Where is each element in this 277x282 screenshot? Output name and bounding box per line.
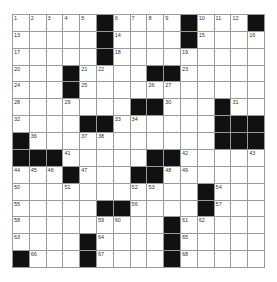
- grid-cell[interactable]: [97, 184, 114, 201]
- grid-cell[interactable]: 31: [231, 99, 248, 116]
- grid-cell[interactable]: [114, 82, 131, 99]
- grid-cell[interactable]: [198, 251, 215, 268]
- grid-cell[interactable]: 13: [13, 32, 30, 49]
- grid-cell[interactable]: [30, 32, 47, 49]
- grid-cell[interactable]: 33: [114, 116, 131, 133]
- grid-cell[interactable]: 44: [13, 167, 30, 184]
- grid-cell[interactable]: 58: [13, 217, 30, 234]
- grid-cell[interactable]: [97, 167, 114, 184]
- grid-cell[interactable]: 8: [147, 15, 164, 32]
- grid-cell[interactable]: [47, 184, 64, 201]
- grid-cell[interactable]: [198, 150, 215, 167]
- grid-cell[interactable]: 50: [13, 184, 30, 201]
- grid-cell[interactable]: 51: [63, 184, 80, 201]
- grid-cell[interactable]: [215, 66, 232, 83]
- grid-cell[interactable]: [215, 150, 232, 167]
- grid-cell[interactable]: 54: [215, 184, 232, 201]
- grid-cell[interactable]: 53: [147, 184, 164, 201]
- grid-cell[interactable]: 34: [131, 116, 148, 133]
- grid-cell[interactable]: [231, 167, 248, 184]
- grid-cell[interactable]: 17: [13, 49, 30, 66]
- grid-cell[interactable]: [198, 66, 215, 83]
- grid-cell[interactable]: 22: [97, 66, 114, 83]
- grid-cell[interactable]: 24: [13, 82, 30, 99]
- grid-cell[interactable]: [80, 49, 97, 66]
- grid-cell[interactable]: [147, 217, 164, 234]
- grid-cell[interactable]: 56: [131, 201, 148, 218]
- grid-cell[interactable]: 36: [30, 133, 47, 150]
- grid-cell[interactable]: [131, 66, 148, 83]
- grid-cell[interactable]: [30, 66, 47, 83]
- grid-cell[interactable]: 23: [181, 66, 198, 83]
- grid-cell[interactable]: 59: [97, 217, 114, 234]
- grid-cell[interactable]: 41: [63, 150, 80, 167]
- grid-cell[interactable]: [231, 66, 248, 83]
- grid-cell[interactable]: 19: [181, 49, 198, 66]
- grid-cell[interactable]: [47, 133, 64, 150]
- grid-cell[interactable]: [248, 234, 265, 251]
- grid-cell[interactable]: [47, 251, 64, 268]
- grid-cell[interactable]: [131, 150, 148, 167]
- grid-cell[interactable]: [30, 99, 47, 116]
- grid-cell[interactable]: [198, 234, 215, 251]
- grid-cell[interactable]: 66: [30, 251, 47, 268]
- grid-cell[interactable]: 15: [198, 32, 215, 49]
- grid-cell[interactable]: 57: [215, 201, 232, 218]
- grid-cell[interactable]: [215, 167, 232, 184]
- grid-cell[interactable]: [231, 201, 248, 218]
- grid-cell[interactable]: [231, 234, 248, 251]
- grid-cell[interactable]: [63, 201, 80, 218]
- grid-cell[interactable]: [181, 133, 198, 150]
- grid-cell[interactable]: [215, 49, 232, 66]
- grid-cell[interactable]: 30: [164, 99, 181, 116]
- grid-cell[interactable]: [63, 116, 80, 133]
- grid-cell[interactable]: [147, 133, 164, 150]
- grid-cell[interactable]: 16: [248, 32, 265, 49]
- grid-cell[interactable]: [114, 99, 131, 116]
- grid-cell[interactable]: [231, 150, 248, 167]
- grid-cell[interactable]: 47: [80, 167, 97, 184]
- grid-cell[interactable]: 18: [114, 49, 131, 66]
- grid-cell[interactable]: [147, 234, 164, 251]
- grid-cell[interactable]: [164, 116, 181, 133]
- grid-cell[interactable]: [215, 251, 232, 268]
- grid-cell[interactable]: [248, 217, 265, 234]
- grid-cell[interactable]: [198, 49, 215, 66]
- grid-cell[interactable]: [80, 32, 97, 49]
- grid-cell[interactable]: 67: [97, 251, 114, 268]
- grid-cell[interactable]: [147, 49, 164, 66]
- grid-cell[interactable]: 29: [63, 99, 80, 116]
- grid-cell[interactable]: [181, 99, 198, 116]
- grid-cell[interactable]: [47, 234, 64, 251]
- grid-cell[interactable]: [63, 217, 80, 234]
- grid-cell[interactable]: [30, 116, 47, 133]
- grid-cell[interactable]: [131, 32, 148, 49]
- grid-cell[interactable]: 11: [215, 15, 232, 32]
- grid-cell[interactable]: [30, 217, 47, 234]
- grid-cell[interactable]: [147, 251, 164, 268]
- grid-cell[interactable]: [114, 66, 131, 83]
- grid-cell[interactable]: [114, 167, 131, 184]
- grid-cell[interactable]: [181, 116, 198, 133]
- grid-cell[interactable]: 27: [164, 82, 181, 99]
- grid-cell[interactable]: [231, 184, 248, 201]
- grid-cell[interactable]: [47, 99, 64, 116]
- grid-cell[interactable]: [248, 251, 265, 268]
- grid-cell[interactable]: 4: [63, 15, 80, 32]
- grid-cell[interactable]: 1: [13, 15, 30, 32]
- grid-cell[interactable]: [80, 217, 97, 234]
- grid-cell[interactable]: [215, 82, 232, 99]
- grid-cell[interactable]: [248, 82, 265, 99]
- grid-cell[interactable]: 46: [47, 167, 64, 184]
- grid-cell[interactable]: [30, 82, 47, 99]
- grid-cell[interactable]: 55: [13, 201, 30, 218]
- grid-cell[interactable]: [47, 82, 64, 99]
- grid-cell[interactable]: [131, 217, 148, 234]
- grid-cell[interactable]: [231, 251, 248, 268]
- grid-cell[interactable]: 21: [80, 66, 97, 83]
- grid-cell[interactable]: [198, 99, 215, 116]
- grid-cell[interactable]: [97, 99, 114, 116]
- grid-cell[interactable]: 20: [13, 66, 30, 83]
- grid-cell[interactable]: 9: [164, 15, 181, 32]
- grid-cell[interactable]: [231, 217, 248, 234]
